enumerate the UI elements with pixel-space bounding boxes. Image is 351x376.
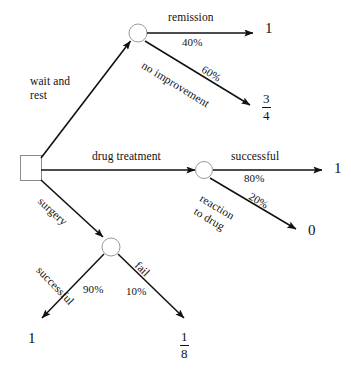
payoff-reaction-to-drug: 0: [308, 222, 316, 239]
decision-tree-diagram: wait and rest remission 40% no improveme…: [0, 0, 351, 376]
payoff-successful-surgery: 1: [28, 330, 36, 347]
branch-label-wait-and-rest-line2: rest: [30, 89, 47, 102]
payoff-no-improvement-denominator: 4: [262, 109, 271, 123]
payoff-no-improvement-numerator: 3: [262, 92, 271, 106]
payoff-successful-drug: 1: [334, 160, 342, 177]
probability-label-fail: 10%: [126, 285, 146, 297]
probability-label-successful-drug: 80%: [244, 172, 264, 184]
payoff-fail: 1 8: [180, 330, 189, 360]
payoff-remission: 1: [265, 20, 273, 37]
payoff-fail-denominator: 8: [180, 347, 189, 361]
root-decision-node: [21, 156, 42, 181]
chance-node-drug: [196, 162, 213, 179]
edge-wait-and-rest: [41, 41, 131, 158]
branch-label-remission: remission: [168, 11, 214, 24]
probability-label-remission: 40%: [182, 36, 202, 48]
payoff-no-improvement: 3 4: [262, 92, 271, 122]
payoff-fail-numerator: 1: [180, 330, 189, 344]
chance-node-wait: [129, 24, 147, 42]
tree-edges-and-nodes: [0, 0, 351, 376]
chance-node-surgery: [102, 238, 120, 256]
branch-label-successful-drug: successful: [231, 150, 279, 163]
branch-label-wait-and-rest-line1: wait and: [30, 75, 70, 88]
probability-label-successful-surgery: 90%: [83, 283, 103, 295]
branch-label-drug-treatment: drug treatment: [92, 150, 161, 163]
